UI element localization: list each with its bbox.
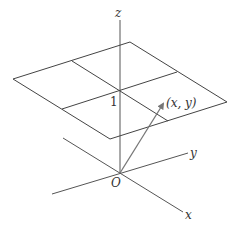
x-axis xyxy=(63,138,183,212)
x-axis-label: x xyxy=(185,208,192,222)
z-axis-label: z xyxy=(114,6,122,20)
y-axis-label: y xyxy=(189,146,197,160)
height-label: 1 xyxy=(110,95,118,109)
point-label: (x, y) xyxy=(166,96,197,110)
origin-label: O xyxy=(111,176,121,190)
coordinate-diagram: z y x O 1 (x, y) xyxy=(0,0,238,227)
